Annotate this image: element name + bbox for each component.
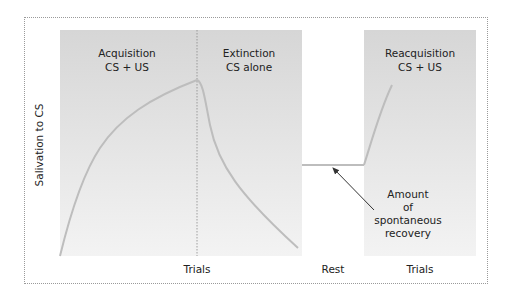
x-label-trials-2: Trials	[406, 263, 434, 275]
extinction-subtitle: CS alone	[226, 61, 272, 73]
extinction-title: Extinction	[223, 47, 275, 59]
annotation-line-4: recovery	[385, 227, 431, 239]
x-label-trials-1: Trials	[183, 263, 211, 275]
acquisition-subtitle: CS + US	[105, 61, 149, 73]
annotation-line-1: Amount	[387, 188, 428, 200]
annotation-line-3: spontaneous	[374, 214, 441, 226]
x-label-rest: Rest	[322, 263, 345, 275]
acquisition-title: Acquisition	[98, 47, 156, 59]
reacquisition-title: Reacquisition	[385, 47, 455, 59]
spontaneous-recovery-chart: Acquisition CS + US Extinction CS alone …	[0, 0, 512, 297]
annotation-line-2: of	[403, 201, 413, 213]
y-axis-label: Salivation to CS	[33, 103, 45, 186]
reacquisition-subtitle: CS + US	[398, 61, 442, 73]
